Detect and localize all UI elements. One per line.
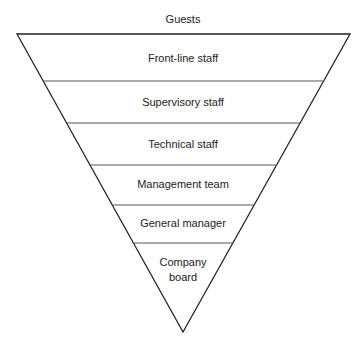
inverted-pyramid-diagram: Guests Front-line staff Supervisory staf…	[0, 0, 363, 348]
layer-company-board-line1: Company	[159, 255, 206, 269]
layer-management-team: Management team	[137, 177, 229, 191]
layer-front-line-staff: Front-line staff	[148, 51, 218, 65]
layer-company-board-line2: board	[169, 270, 197, 284]
layer-supervisory-staff: Supervisory staff	[142, 95, 224, 109]
layer-technical-staff: Technical staff	[148, 137, 218, 151]
top-label-guests: Guests	[166, 12, 201, 26]
layer-general-manager: General manager	[140, 216, 226, 230]
